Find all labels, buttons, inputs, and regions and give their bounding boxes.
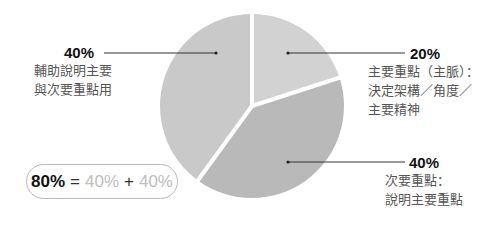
label-line: 主要精神 [368, 100, 498, 119]
label-line: 與次要重點用 [20, 80, 112, 99]
label-line: 輔助說明主要 [20, 61, 112, 80]
label-pct: 40% [385, 154, 498, 171]
equation-plus: + [124, 172, 134, 192]
equation-equals: = [70, 172, 80, 192]
label-pct: 20% [368, 45, 498, 62]
label-line: 決定架構／角度／ [368, 81, 498, 100]
label-pct: 40% [20, 44, 112, 61]
equation-part1: 40% [85, 172, 119, 192]
equation-part2: 40% [139, 172, 173, 192]
label-line: 說明主要重點 [385, 190, 498, 209]
label-line: 主要重點（主脈）： [368, 62, 498, 81]
equation-box: 80% = 40% + 40% [26, 164, 178, 199]
label-supporting-points: 40% 輔助說明主要 與次要重點用 [20, 44, 112, 99]
label-main-points: 20% 主要重點（主脈）： 決定架構／角度／ 主要精神 [368, 45, 498, 119]
label-secondary-points: 40% 次要重點： 說明主要重點 [385, 154, 498, 209]
label-line: 次要重點： [385, 171, 498, 190]
equation-total: 80% [31, 172, 65, 192]
